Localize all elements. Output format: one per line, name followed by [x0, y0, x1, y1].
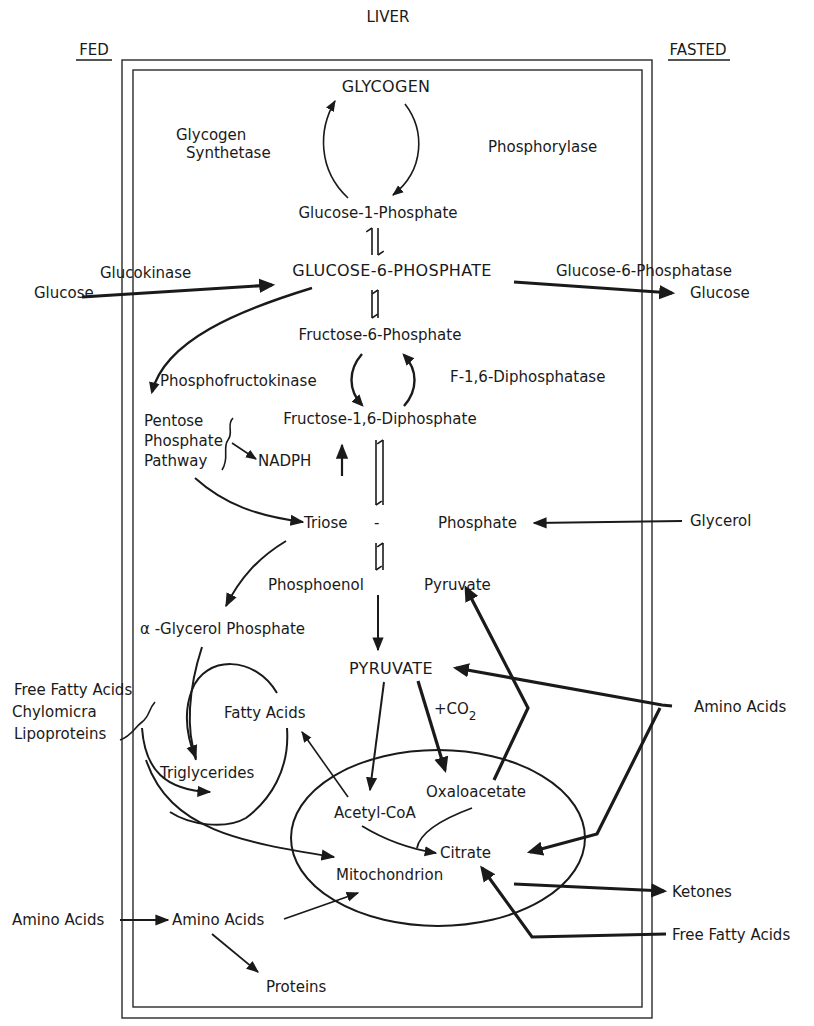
- label-glycogen-synthetase-1: Glycogen: [176, 126, 246, 144]
- node-amino-acids-right: Amino Acids: [694, 698, 786, 716]
- arrow-acetyl-coa-to-citrate: [362, 826, 436, 853]
- label-pentose-1: Pentose: [144, 412, 203, 430]
- node-phosphoenol: Phosphoenol: [268, 576, 364, 594]
- node-free-fatty-acids-in-2: Chylomicra: [12, 703, 97, 721]
- node-glucose-in: Glucose: [34, 284, 94, 302]
- arrow-g6p-to-glucose: [514, 282, 672, 293]
- label-pentose-2: Phosphate: [144, 432, 223, 450]
- column-fasted: FASTED: [669, 41, 726, 59]
- node-nadph: NADPH: [258, 452, 311, 470]
- arrow-f16-diphosphatase: [404, 355, 415, 406]
- node-ketones: Ketones: [672, 883, 732, 901]
- brace-pentose: [222, 418, 233, 470]
- node-citrate: Citrate: [440, 844, 491, 862]
- arrow-acetyl-coa-to-fatty-acids: [302, 732, 348, 797]
- arrow-pfk: [352, 354, 363, 405]
- node-fructose-16-diphosphate: Fructose-1,6-Diphosphate: [283, 410, 476, 428]
- node-fructose-6-phosphate: Fructose-6-Phosphate: [299, 326, 462, 344]
- squiggle-ffa-entry: [120, 702, 155, 740]
- arrow-glycogen-synthesis: [324, 101, 348, 198]
- node-proteins: Proteins: [266, 978, 327, 996]
- arrow-oxaloacetate-to-pep: [466, 588, 528, 780]
- node-glucose-out: Glucose: [690, 284, 750, 302]
- node-glycogen: GLYCOGEN: [342, 77, 431, 96]
- label-f16-diphosphatase: F-1,6-Diphosphatase: [450, 368, 605, 386]
- label-glucokinase: Glucokinase: [100, 264, 191, 282]
- column-fed: FED: [79, 41, 109, 59]
- node-free-fatty-acids-in-3: Lipoproteins: [14, 725, 107, 743]
- node-amino-acids-mid: Amino Acids: [172, 911, 264, 929]
- arrow-pentose-to-nadph: [232, 443, 256, 459]
- arrow-glucose-to-g6p: [82, 285, 272, 297]
- node-oxaloacetate: Oxaloacetate: [426, 783, 526, 801]
- arrow-ffa-to-triglycerides: [142, 728, 210, 792]
- node-glucose-1-phosphate: Glucose-1-Phosphate: [298, 204, 457, 222]
- node-alpha-glycerol-phosphate: α -Glycerol Phosphate: [140, 620, 305, 638]
- title-liver: LIVER: [367, 8, 410, 26]
- arrow-glycerol-to-triose-phosphate: [534, 521, 682, 523]
- mitochondrion-membrane: [291, 750, 585, 926]
- arrow-pyruvate-to-acetyl-coa: [370, 682, 384, 790]
- arrow-triose-to-alpha-glycerol-phosphate: [226, 541, 286, 606]
- arrow-pyruvate-to-oxaloacetate: [418, 681, 445, 770]
- label-glucose-6-phosphatase: Glucose-6-Phosphatase: [556, 262, 732, 280]
- arrow-glycogenolysis: [393, 104, 419, 195]
- node-glycerol: Glycerol: [690, 512, 751, 530]
- node-triglycerides: Triglycerides: [159, 764, 254, 782]
- node-triose: Triose: [303, 514, 348, 532]
- arrow-amino-acids-to-proteins: [212, 934, 258, 972]
- arrow-amino-acids-to-pyruvate: [456, 668, 672, 706]
- arrow-ffa-to-mitochondrion-fasted: [482, 868, 666, 937]
- node-amino-acids-in: Amino Acids: [12, 911, 104, 929]
- label-pentose-3: Pathway: [144, 452, 207, 470]
- label-phosphorylase: Phosphorylase: [488, 138, 597, 156]
- node-phosphate: Phosphate: [438, 514, 517, 532]
- liver-metabolism-diagram: LIVER FED FASTED GLYCOGEN Glycogen Synth…: [0, 0, 814, 1026]
- node-fatty-acids: Fatty Acids: [224, 704, 306, 722]
- node-glucose-6-phosphate: GLUCOSE-6-PHOSPHATE: [292, 261, 491, 280]
- arrow-pentose-to-triose: [195, 478, 303, 522]
- label-glycogen-synthetase-2: Synthetase: [186, 144, 271, 162]
- node-dash: -: [374, 514, 379, 532]
- label-phosphofructokinase: Phosphofructokinase: [160, 372, 317, 390]
- label-co2: +CO2: [434, 700, 477, 723]
- node-free-fatty-acids-in-1: Free Fatty Acids: [14, 681, 132, 699]
- arrow-alpha-gp-to-triglycerides: [190, 647, 202, 758]
- node-pyruvate-pep: Pyruvate: [424, 576, 491, 594]
- arc-oxaloacetate-to-citrate: [417, 808, 472, 848]
- node-mitochondrion: Mitochondrion: [336, 866, 443, 884]
- node-free-fatty-acids-right: Free Fatty Acids: [672, 926, 790, 944]
- node-acetyl-coa: Acetyl-CoA: [334, 804, 416, 822]
- node-pyruvate: PYRUVATE: [349, 659, 433, 678]
